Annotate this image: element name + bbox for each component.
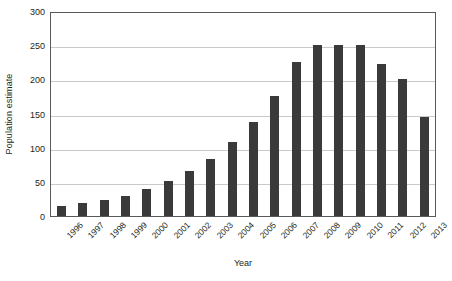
y-tick-label: 150 [30, 110, 45, 120]
bar[interactable] [420, 117, 429, 216]
bar-slot [243, 13, 264, 216]
bar[interactable] [78, 203, 87, 216]
bar-slot [158, 13, 179, 216]
bar[interactable] [334, 45, 343, 216]
x-tick-slot: 2007 [286, 219, 307, 255]
bar[interactable] [356, 45, 365, 216]
bar[interactable] [164, 181, 173, 216]
x-tick-slot: 2005 [243, 219, 264, 255]
bar[interactable] [142, 189, 151, 216]
y-tick-label: 50 [35, 178, 45, 188]
bar[interactable] [228, 142, 237, 216]
bar[interactable] [249, 122, 258, 216]
bar-slot [392, 13, 413, 216]
x-tick-slot: 2012 [393, 219, 414, 255]
y-axis-title-label: Population estimate [4, 74, 14, 155]
x-tick-slot: 2001 [157, 219, 178, 255]
bar-slot [51, 13, 72, 216]
bar-slot [350, 13, 371, 216]
bar[interactable] [57, 206, 66, 216]
plot-area [50, 12, 436, 217]
x-tick-slot: 1999 [114, 219, 135, 255]
bar-slot [307, 13, 328, 216]
y-tick-label: 200 [30, 75, 45, 85]
bar[interactable] [185, 171, 194, 216]
x-tick-slot: 2004 [222, 219, 243, 255]
x-tick-slot: 1997 [71, 219, 92, 255]
x-axis-title: Year [50, 258, 436, 268]
x-tick-slot: 2011 [372, 219, 393, 255]
x-tick-slot: 2013 [414, 219, 435, 255]
x-tick-slot: 2008 [307, 219, 328, 255]
y-tick-label: 100 [30, 144, 45, 154]
y-axis-title: Population estimate [0, 0, 18, 228]
bar[interactable] [206, 159, 215, 216]
bar-slot [179, 13, 200, 216]
x-tick-slot: 1998 [93, 219, 114, 255]
bar[interactable] [270, 96, 279, 216]
x-tick-slot: 2003 [200, 219, 221, 255]
y-tick-label: 300 [30, 7, 45, 17]
bar[interactable] [377, 64, 386, 216]
x-tick-slot: 1996 [50, 219, 71, 255]
bar-slot [264, 13, 285, 216]
bar-slot [414, 13, 435, 216]
x-tick-slot: 2000 [136, 219, 157, 255]
x-tick-slot: 2002 [179, 219, 200, 255]
x-axis-tick-labels: 1996199719981999200020012002200320042005… [50, 219, 436, 255]
bar-slot [286, 13, 307, 216]
y-tick-label: 250 [30, 41, 45, 51]
bar-slot [200, 13, 221, 216]
y-axis-tick-labels: 050100150200250300 [18, 12, 48, 217]
bar-slot [328, 13, 349, 216]
x-tick-label: 2013 [429, 220, 449, 240]
bar-chart-figure: Population estimate 050100150200250300 1… [0, 0, 452, 281]
bar[interactable] [121, 196, 130, 217]
bar[interactable] [100, 200, 109, 216]
bar-slot [136, 13, 157, 216]
bar-slot [371, 13, 392, 216]
bar-slot [222, 13, 243, 216]
bar[interactable] [313, 45, 322, 216]
bar[interactable] [398, 79, 407, 216]
x-tick-slot: 2010 [350, 219, 371, 255]
bar-slot [72, 13, 93, 216]
bar[interactable] [292, 62, 301, 216]
x-tick-slot: 2006 [264, 219, 285, 255]
bar-slot [115, 13, 136, 216]
bar-slot [94, 13, 115, 216]
bars-layer [51, 13, 435, 216]
x-tick-slot: 2009 [329, 219, 350, 255]
y-tick-label: 0 [40, 212, 45, 222]
